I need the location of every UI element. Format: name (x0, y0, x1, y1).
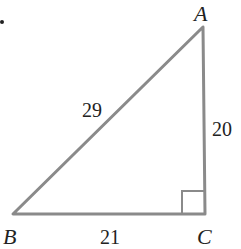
bullet-dot (0, 20, 4, 24)
triangle-diagram: A B C 29 20 21 (0, 0, 241, 249)
triangle-abc (13, 27, 205, 214)
triangle-figure: A B C 29 20 21 (0, 0, 241, 249)
side-label-bc: 21 (100, 226, 120, 248)
side-label-ac: 20 (212, 118, 232, 140)
vertex-label-b: B (3, 224, 16, 249)
vertex-label-c: C (197, 224, 212, 249)
side-label-ab: 29 (82, 99, 102, 121)
right-angle-marker (182, 191, 205, 214)
vertex-label-a: A (192, 1, 208, 26)
